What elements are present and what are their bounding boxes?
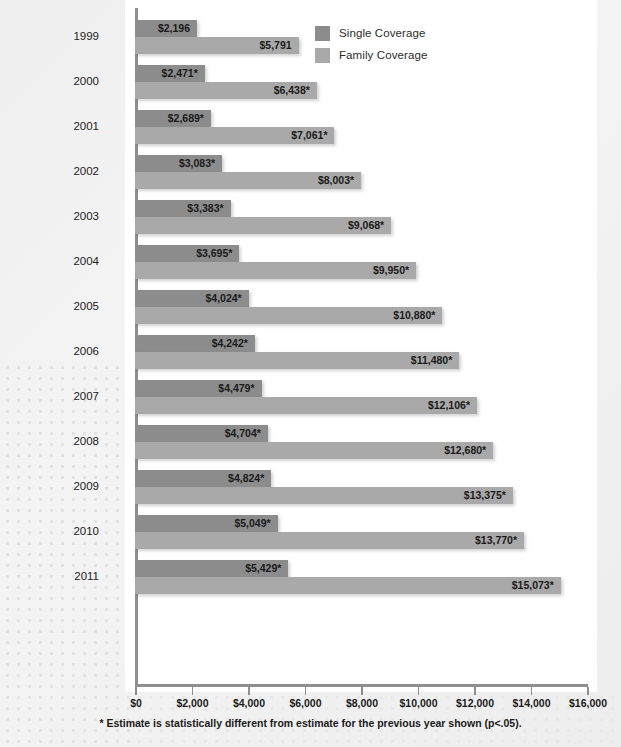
page-background: Single CoverageFamily Coverage $2,196$5,… xyxy=(0,0,621,747)
year-axis-label: 2001 xyxy=(0,120,110,132)
bar-value-label: $2,471* xyxy=(135,65,205,82)
bar-value-label: $3,083* xyxy=(135,155,222,172)
x-axis-tick xyxy=(192,687,194,695)
bar-value-label: $2,196 xyxy=(135,20,197,37)
year-axis-label: 2010 xyxy=(0,525,110,537)
year-axis-label: 2011 xyxy=(0,570,110,582)
x-axis-tick-label: $16,000 xyxy=(569,697,607,709)
bar-value-label: $5,429* xyxy=(135,560,288,577)
bar-value-label: $10,880* xyxy=(135,307,442,324)
bar-value-label: $8,003* xyxy=(135,172,361,189)
year-axis-label: 2008 xyxy=(0,435,110,447)
x-axis-tick xyxy=(248,687,250,695)
x-axis-tick xyxy=(361,687,363,695)
year-axis-label: 2005 xyxy=(0,300,110,312)
x-axis-tick-label: $6,000 xyxy=(289,697,321,709)
bar-value-label: $6,438* xyxy=(135,82,317,99)
year-axis-label: 2004 xyxy=(0,255,110,267)
bar-value-label: $4,824* xyxy=(135,470,271,487)
bar-value-label: $3,383* xyxy=(135,200,231,217)
bar-value-label: $9,068* xyxy=(135,217,391,234)
year-axis-label: 2006 xyxy=(0,345,110,357)
bar-value-label: $4,704* xyxy=(135,425,268,442)
x-axis-tick-label: $0 xyxy=(130,697,142,709)
bar-value-label: $4,479* xyxy=(135,380,262,397)
x-axis-tick-label: $8,000 xyxy=(346,697,378,709)
year-axis-label: 2002 xyxy=(0,165,110,177)
bar-value-label: $3,695* xyxy=(135,245,239,262)
bar-value-label: $13,770* xyxy=(135,532,524,549)
bar-value-label: $2,689* xyxy=(135,110,211,127)
bar-value-label: $7,061* xyxy=(135,127,334,144)
bar-value-label: $12,680* xyxy=(135,442,493,459)
x-axis-tick xyxy=(305,687,307,695)
year-axis-label: 2003 xyxy=(0,210,110,222)
x-axis-tick xyxy=(474,687,476,695)
year-axis-label: 1999 xyxy=(0,30,110,42)
x-axis-tick xyxy=(418,687,420,695)
bar-value-label: $12,106* xyxy=(135,397,477,414)
bar-value-label: $5,791 xyxy=(135,37,299,54)
bar-value-label: $15,073* xyxy=(135,577,561,594)
bar-value-label: $13,375* xyxy=(135,487,513,504)
x-axis-tick xyxy=(587,687,589,695)
year-axis-label: 2007 xyxy=(0,390,110,402)
chart-footnote: * Estimate is statistically different fr… xyxy=(0,717,621,729)
horizontal-bar-chart: Single CoverageFamily Coverage $2,196$5,… xyxy=(0,0,621,747)
x-axis-tick-label: $14,000 xyxy=(513,697,551,709)
year-axis-label: 2009 xyxy=(0,480,110,492)
x-axis-tick xyxy=(531,687,533,695)
bar-value-label: $11,480* xyxy=(135,352,459,369)
x-axis-tick-label: $12,000 xyxy=(456,697,494,709)
x-axis-tick-label: $4,000 xyxy=(233,697,265,709)
bar-value-label: $9,950* xyxy=(135,262,416,279)
bar-value-label: $4,242* xyxy=(135,335,255,352)
x-axis-tick-label: $10,000 xyxy=(400,697,438,709)
year-axis-label: 2000 xyxy=(0,75,110,87)
x-axis-tick xyxy=(135,687,137,695)
bar-value-label: $4,024* xyxy=(135,290,249,307)
bar-value-label: $5,049* xyxy=(135,515,278,532)
x-axis-tick-label: $2,000 xyxy=(176,697,208,709)
